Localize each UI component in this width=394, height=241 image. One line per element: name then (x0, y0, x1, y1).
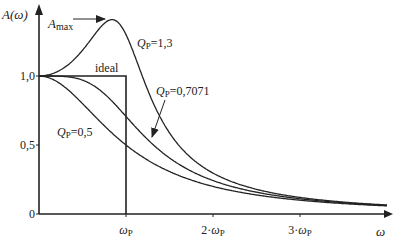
x-axis-arrow-icon (384, 210, 393, 218)
y-tick-label: 0 (29, 207, 35, 221)
y-ticks: 00,51,0 (20, 69, 39, 221)
label-q-0-7071: QP=0,7071 (156, 84, 209, 99)
y-tick-label: 1,0 (20, 69, 35, 83)
y-axis-arrow-icon (35, 4, 43, 15)
y-axis-label: A(ω) (1, 7, 28, 22)
x-tick-label: 2·ωP (201, 223, 225, 238)
x-axis-label: ω (376, 224, 385, 239)
curves (39, 20, 387, 206)
frequency-response-chart: ωP2·ωP3·ωP 00,51,0 A(ω) ω Amax ideal QP=… (0, 0, 394, 241)
y-tick-label: 0,5 (20, 138, 35, 152)
x-tick-label: ωP (119, 223, 133, 238)
ideal-label: ideal (95, 61, 119, 75)
amax-label: Amax (47, 16, 73, 32)
x-tick-label: 3·ωP (288, 223, 312, 238)
ideal-response-line (39, 76, 126, 214)
curve-qp-0-5 (39, 76, 387, 206)
x-ticks: ωP2·ωP3·ωP (119, 214, 312, 238)
label-q-1-3: QP=1,3 (137, 36, 172, 51)
label-q-0-5: QP=0,5 (57, 125, 92, 140)
